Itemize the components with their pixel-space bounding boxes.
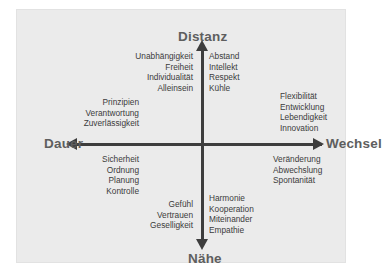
diagram-panel: Distanz Nähe Dauer Wechsel Unabhängigkei… — [16, 9, 346, 263]
cluster-word: Sicherheit — [67, 154, 139, 165]
cluster-word: Harmonie — [209, 193, 281, 204]
cluster-word: Planung — [67, 175, 139, 186]
cluster-word: Alleinsein — [115, 83, 193, 94]
cluster-word: Flexibilität — [280, 91, 355, 102]
word-cluster-lower-left: Sicherheit Ordnung Planung Kontrolle — [67, 154, 139, 196]
cluster-word: Respekt — [209, 72, 279, 83]
cluster-word: Spontanität — [273, 175, 353, 186]
cluster-word: Gefühl — [120, 199, 193, 210]
cluster-word: Abwechslung — [273, 165, 353, 176]
cluster-word: Verantwortung — [61, 108, 139, 119]
word-cluster-top-right: Abstand Intellekt Respekt Kühle — [209, 51, 279, 93]
word-cluster-upper-right: Flexibilität Entwicklung Lebendigkeit In… — [280, 91, 355, 133]
horizontal-axis-line — [73, 143, 322, 146]
vertical-axis-line — [201, 48, 204, 246]
arrow-down-icon — [196, 239, 208, 250]
cluster-word: Abstand — [209, 51, 279, 62]
word-cluster-bottom-left: Gefühl Vertrauen Geselligkeit — [120, 199, 193, 231]
cluster-word: Entwicklung — [280, 102, 355, 113]
cluster-word: Freiheit — [115, 62, 193, 73]
cluster-word: Veränderung — [273, 154, 353, 165]
pole-label-right: Wechsel — [326, 136, 382, 151]
cluster-word: Kühle — [209, 83, 279, 94]
cluster-word: Lebendigkeit — [280, 112, 355, 123]
word-cluster-lower-right: Veränderung Abwechslung Spontanität — [273, 154, 353, 186]
cluster-word: Zuverlässigkeit — [61, 118, 139, 129]
word-cluster-top-left: Unabhängigkeit Freiheit Individualität A… — [115, 51, 193, 93]
cluster-word: Vertrauen — [120, 210, 193, 221]
word-cluster-bottom-right: Harmonie Kooperation Miteinander Empathi… — [209, 193, 281, 235]
pole-label-left: Dauer — [44, 136, 83, 151]
arrow-right-icon — [313, 138, 324, 150]
cluster-word: Geselligkeit — [120, 220, 193, 231]
cluster-word: Individualität — [115, 72, 193, 83]
cluster-word: Empathie — [209, 225, 281, 236]
cluster-word: Intellekt — [209, 62, 279, 73]
cluster-word: Innovation — [280, 123, 355, 134]
pole-label-top: Distanz — [178, 29, 227, 44]
pole-label-bottom: Nähe — [188, 251, 222, 266]
word-cluster-upper-left: Prinzipien Verantwortung Zuverlässigkeit — [61, 97, 139, 129]
cluster-word: Unabhängigkeit — [115, 51, 193, 62]
cluster-word: Prinzipien — [61, 97, 139, 108]
cluster-word: Kontrolle — [67, 186, 139, 197]
cluster-word: Miteinander — [209, 214, 281, 225]
cluster-word: Kooperation — [209, 204, 281, 215]
cluster-word: Ordnung — [67, 165, 139, 176]
